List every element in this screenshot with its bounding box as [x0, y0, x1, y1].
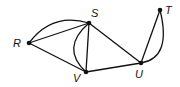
node-T	[158, 8, 163, 13]
graph-diagram: RSVUT	[0, 0, 180, 87]
node-label-U: U	[135, 68, 143, 80]
labels: RSVUT	[13, 4, 173, 84]
node-V	[84, 70, 89, 75]
edge-S-U	[89, 23, 141, 63]
node-label-V: V	[73, 72, 82, 84]
edge-R-V	[29, 43, 86, 72]
edge-S-V	[86, 23, 89, 72]
edge-V-U	[86, 63, 141, 72]
node-label-S: S	[91, 7, 99, 19]
node-S	[87, 21, 92, 26]
node-U	[139, 61, 144, 66]
node-label-R: R	[13, 37, 21, 49]
node-R	[27, 41, 32, 46]
node-label-T: T	[165, 4, 173, 16]
